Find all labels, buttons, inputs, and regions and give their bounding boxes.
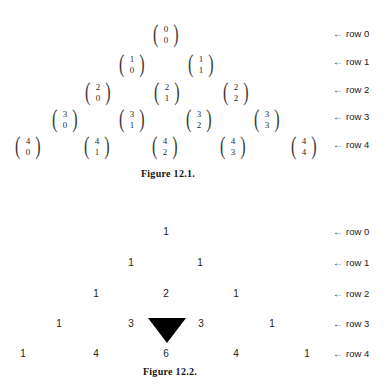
- binomial-k: 2: [225, 93, 247, 104]
- binomial-values: 20: [87, 82, 109, 103]
- row-label-text: row 1: [346, 257, 369, 268]
- binomial-coefficient-4-4: ()44: [293, 132, 315, 162]
- arrow-left-icon: ←: [333, 318, 346, 330]
- binomial-values: 11: [190, 54, 212, 75]
- binomial-k: 1: [121, 120, 143, 131]
- pascal-value-r3: 1: [264, 318, 280, 330]
- arrow-left-icon: ←: [333, 257, 346, 269]
- pascal-value-r4: 6: [158, 348, 174, 360]
- pascal-value-r4: 4: [88, 348, 104, 360]
- figure-12-2-row-label-3: ←row 3: [333, 318, 369, 330]
- figure-12-1-caption: Figure 12.1.: [108, 168, 228, 180]
- binomial-coefficient-2-2: ()22: [225, 78, 247, 108]
- binomial-k: 1: [156, 93, 178, 104]
- arrow-left-icon: ←: [333, 348, 346, 360]
- pascal-value-r3: 3: [123, 318, 139, 330]
- figure-12-1-row-label-1: ←row 1: [333, 56, 369, 68]
- row-label-text: row 1: [346, 56, 369, 67]
- binomial-k: 0: [121, 65, 143, 76]
- binomial-coefficient-4-1: ()41: [86, 132, 108, 162]
- binomial-k: 0: [155, 35, 177, 46]
- binomial-k: 0: [54, 120, 76, 131]
- binomial-values: 41: [86, 136, 108, 157]
- binomial-n: 4: [222, 136, 244, 147]
- pascal-value-r3: 3: [193, 318, 209, 330]
- binomial-coefficient-3-0: ()30: [54, 105, 76, 135]
- binomial-n: 3: [121, 109, 143, 120]
- pascal-value-r2: 1: [228, 288, 244, 300]
- binomial-n: 3: [256, 109, 278, 120]
- binomial-k: 2: [154, 147, 176, 158]
- figure-page: ()00()10()11()20()21()22()30()31()32()33…: [0, 0, 392, 387]
- binomial-n: 0: [155, 24, 177, 35]
- binomial-values: 43: [222, 136, 244, 157]
- binomial-n: 4: [154, 136, 176, 147]
- binomial-coefficient-1-0: ()10: [121, 50, 143, 80]
- binomial-n: 2: [87, 82, 109, 93]
- pascal-value-r4: 1: [15, 348, 31, 360]
- binomial-k: 2: [188, 120, 210, 131]
- figure-12-2-row-label-1: ←row 1: [333, 257, 369, 269]
- figure-12-2-row-label-4: ←row 4: [333, 348, 369, 360]
- binomial-coefficient-2-0: ()20: [87, 78, 109, 108]
- arrow-left-icon: ←: [333, 28, 346, 40]
- row-label-text: row 3: [346, 318, 369, 329]
- binomial-n: 1: [190, 54, 212, 65]
- pascal-value-r2: 1: [88, 288, 104, 300]
- figure-12-1-row-label-3: ←row 3: [333, 111, 369, 123]
- figure-12-1-row-label-4: ←row 4: [333, 139, 369, 151]
- pascal-value-r0: 1: [158, 226, 174, 238]
- binomial-coefficient-2-1: ()21: [156, 78, 178, 108]
- binomial-values: 44: [293, 136, 315, 157]
- arrow-left-icon: ←: [333, 226, 346, 238]
- row-label-text: row 2: [346, 84, 369, 95]
- pascal-value-r4: 4: [228, 348, 244, 360]
- pascal-value-r3: 1: [51, 318, 67, 330]
- row-label-text: row 4: [346, 348, 369, 359]
- binomial-coefficient-3-3: ()33: [256, 105, 278, 135]
- pascal-value-r1: 1: [192, 257, 208, 269]
- row-label-text: row 2: [346, 288, 369, 299]
- row-label-text: row 4: [346, 139, 369, 150]
- down-triangle-pointer-icon: [148, 318, 186, 343]
- row-label-text: row 0: [346, 226, 369, 237]
- binomial-n: 3: [54, 109, 76, 120]
- binomial-coefficient-4-0: ()40: [17, 132, 39, 162]
- binomial-n: 2: [225, 82, 247, 93]
- arrow-left-icon: ←: [333, 111, 346, 123]
- arrow-left-icon: ←: [333, 84, 346, 96]
- binomial-values: 32: [188, 109, 210, 130]
- row-label-text: row 0: [346, 28, 369, 39]
- binomial-coefficient-3-1: ()31: [121, 105, 143, 135]
- binomial-values: 10: [121, 54, 143, 75]
- binomial-values: 31: [121, 109, 143, 130]
- binomial-n: 3: [188, 109, 210, 120]
- arrow-left-icon: ←: [333, 139, 346, 151]
- arrow-left-icon: ←: [333, 56, 346, 68]
- binomial-n: 4: [293, 136, 315, 147]
- pascal-value-r2: 2: [158, 288, 174, 300]
- binomial-values: 00: [155, 24, 177, 45]
- binomial-k: 4: [293, 147, 315, 158]
- binomial-coefficient-3-2: ()32: [188, 105, 210, 135]
- binomial-k: 3: [222, 147, 244, 158]
- binomial-values: 22: [225, 82, 247, 103]
- figure-12-2-row-label-0: ←row 0: [333, 226, 369, 238]
- figure-12-1-row-label-2: ←row 2: [333, 84, 369, 96]
- binomial-coefficient-4-2: ()42: [154, 132, 176, 162]
- binomial-k: 1: [86, 147, 108, 158]
- binomial-values: 33: [256, 109, 278, 130]
- binomial-k: 3: [256, 120, 278, 131]
- binomial-n: 2: [156, 82, 178, 93]
- binomial-coefficient-0-0: ()00: [155, 20, 177, 50]
- figure-12-2-row-label-2: ←row 2: [333, 288, 369, 300]
- binomial-k: 1: [190, 65, 212, 76]
- arrow-left-icon: ←: [333, 288, 346, 300]
- figure-12-1-row-label-0: ←row 0: [333, 28, 369, 40]
- binomial-coefficient-1-1: ()11: [190, 50, 212, 80]
- binomial-values: 42: [154, 136, 176, 157]
- binomial-coefficient-4-3: ()43: [222, 132, 244, 162]
- pascal-value-r4: 1: [299, 348, 315, 360]
- binomial-k: 0: [87, 93, 109, 104]
- row-label-text: row 3: [346, 111, 369, 122]
